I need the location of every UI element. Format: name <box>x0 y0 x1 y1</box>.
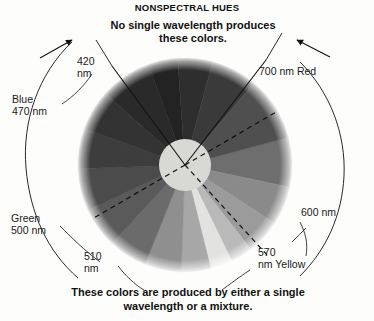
leader-570-to-600 <box>292 228 306 242</box>
label-510nm: 510 nm <box>84 250 102 274</box>
arrow-nonspectral-right <box>297 40 330 57</box>
label-420nm: 420 nm <box>77 55 95 79</box>
label-blue-470nm: Blue 470 nm <box>12 93 47 117</box>
arrow-nonspectral-left <box>40 40 72 58</box>
leader-570nm <box>222 270 250 290</box>
color-wheel-diagram <box>0 0 374 321</box>
leader-700nm <box>266 33 282 60</box>
figure-nonspectral-hues: NONSPECTRAL HUES No single wavelength pr… <box>0 0 374 321</box>
label-700nm-red: 700 nm Red <box>259 65 316 77</box>
leader-510nm <box>118 266 144 290</box>
label-green-500nm: Green 500 nm <box>11 212 46 236</box>
outer-arc-left <box>25 42 78 278</box>
leader-420nm <box>96 40 112 66</box>
label-600nm: 600 nm <box>301 206 336 218</box>
label-570nm-yellow: 570 nm Yellow <box>258 246 305 270</box>
